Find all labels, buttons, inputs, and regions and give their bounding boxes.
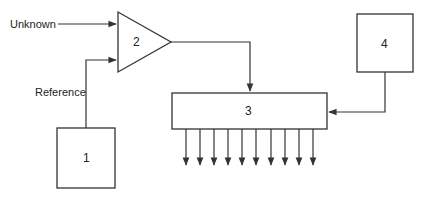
block-2-label: 2 <box>133 35 140 49</box>
block-1-label: 1 <box>83 151 90 165</box>
block-4-output-arrow <box>329 72 385 112</box>
block-3-label: 3 <box>245 104 252 118</box>
reference-label: Reference <box>35 86 86 98</box>
block-4-label: 4 <box>381 37 388 51</box>
block-3-outputs <box>186 129 313 165</box>
reference-arrow <box>86 60 116 128</box>
block-diagram: Unknown 2 Reference 1 3 4 <box>0 0 429 198</box>
unknown-label: Unknown <box>10 18 56 30</box>
amplifier-output-arrow <box>171 42 250 91</box>
amplifier-block-2 <box>118 12 171 72</box>
